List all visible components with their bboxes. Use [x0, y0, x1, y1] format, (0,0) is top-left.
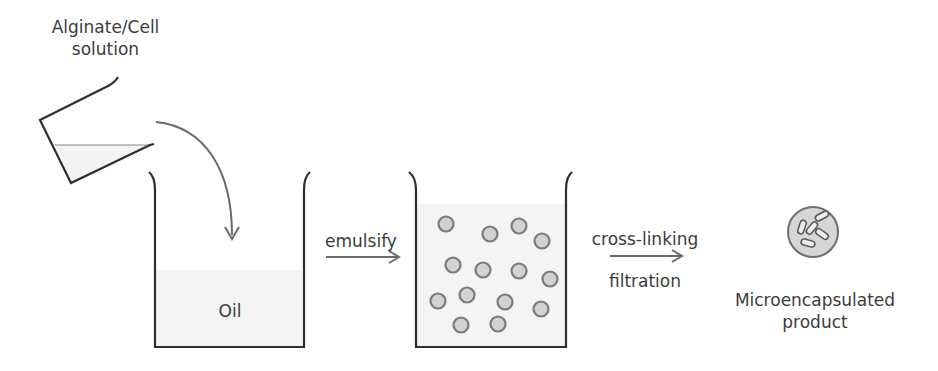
droplet — [498, 295, 513, 310]
droplet — [439, 217, 454, 232]
filtration-label: filtration — [580, 270, 710, 292]
droplet — [460, 288, 475, 303]
droplet — [446, 258, 461, 273]
pour-arrow — [156, 122, 239, 239]
product-label: Microencapsulated product — [720, 289, 910, 333]
source-label: Alginate/Cell solution — [18, 16, 193, 60]
crosslink-arrow — [610, 250, 682, 262]
crosslinking-label: cross-linking — [580, 228, 710, 250]
droplet — [476, 263, 491, 278]
emulsify-label: emulsify — [315, 230, 407, 252]
emulsion-beaker — [409, 172, 572, 347]
emulsify-arrow — [326, 251, 399, 263]
droplet — [534, 302, 549, 317]
droplet — [491, 317, 506, 332]
droplet — [483, 227, 498, 242]
droplet — [431, 294, 446, 309]
droplet — [512, 264, 527, 279]
microcapsule-icon — [788, 207, 838, 257]
droplet — [512, 219, 527, 234]
pouring-beaker — [40, 77, 154, 183]
droplet — [543, 272, 558, 287]
droplet — [535, 234, 550, 249]
oil-label: Oil — [205, 300, 255, 322]
droplet — [454, 318, 469, 333]
